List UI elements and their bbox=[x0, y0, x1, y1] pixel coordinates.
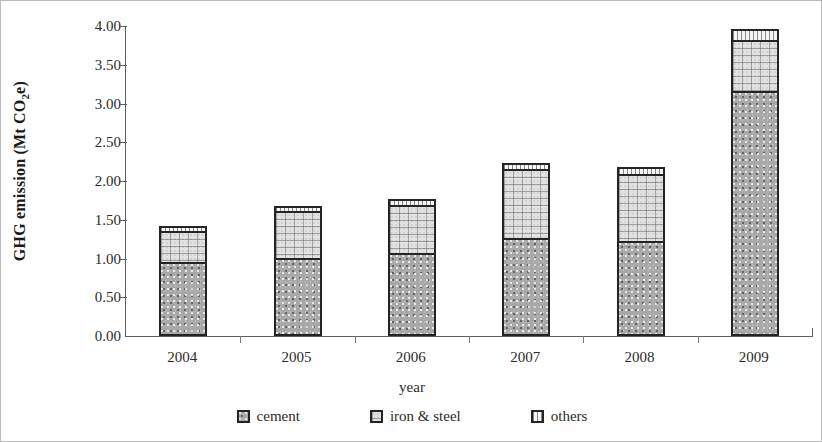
legend-label: others bbox=[551, 408, 588, 425]
y-tick-label: 1.50 bbox=[47, 211, 121, 228]
chart-legend: cementiron & steelothers bbox=[1, 408, 822, 425]
y-tick-label: 2.00 bbox=[47, 173, 121, 190]
y-tick-label: 4.00 bbox=[47, 18, 121, 35]
x-tick-label-2006: 2006 bbox=[356, 349, 466, 366]
legend-swatch-icon bbox=[531, 410, 544, 423]
legend-swatch-icon bbox=[370, 410, 383, 423]
legend-item-others[interactable]: others bbox=[531, 408, 588, 425]
y-axis-label: GHG emission (Mt CO2e) bbox=[3, 1, 39, 341]
legend-label: iron & steel bbox=[390, 408, 461, 425]
x-tick-label-2008: 2008 bbox=[585, 349, 695, 366]
x-tick-label-2007: 2007 bbox=[470, 349, 580, 366]
y-tick-label: 0.00 bbox=[47, 328, 121, 345]
x-axis-tick-labels: 200420052006200720082009 bbox=[125, 1, 811, 442]
y-tick-label: 3.00 bbox=[47, 95, 121, 112]
legend-item-iron-steel[interactable]: iron & steel bbox=[370, 408, 461, 425]
legend-item-cement[interactable]: cement bbox=[237, 408, 300, 425]
x-tick-label-2009: 2009 bbox=[699, 349, 809, 366]
y-tick-label: 0.50 bbox=[47, 289, 121, 306]
y-axis-tick-labels: 0.000.501.001.502.002.503.003.504.00 bbox=[41, 1, 121, 442]
x-tick-label-2004: 2004 bbox=[127, 349, 237, 366]
legend-label: cement bbox=[257, 408, 300, 425]
y-axis-label-suffix: e) bbox=[11, 81, 28, 94]
x-axis-label: year bbox=[1, 379, 822, 396]
x-tick-label-2005: 2005 bbox=[242, 349, 352, 366]
y-axis-label-subscript: 2 bbox=[19, 94, 31, 100]
y-tick-label: 1.00 bbox=[47, 250, 121, 267]
y-tick-label: 2.50 bbox=[47, 134, 121, 151]
y-axis-label-prefix: GHG emission (Mt CO bbox=[11, 99, 28, 261]
y-tick-label: 3.50 bbox=[47, 56, 121, 73]
axis-right-cap bbox=[812, 328, 813, 337]
legend-swatch-icon bbox=[237, 410, 250, 423]
ghg-emission-stacked-bar-chart: GHG emission (Mt CO2e) 0.000.501.001.502… bbox=[0, 0, 822, 442]
